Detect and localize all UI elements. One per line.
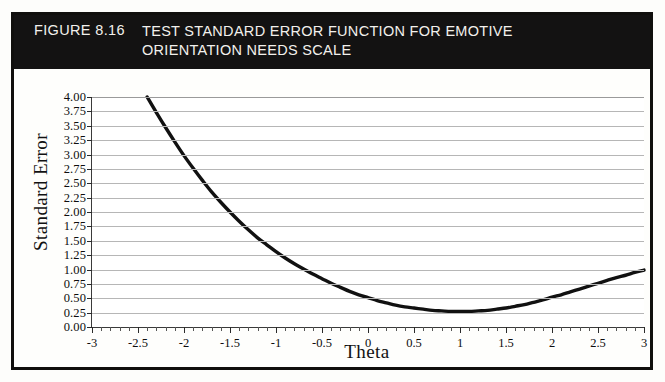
x-tick-minor [147,327,148,331]
y-tick-label: 0.50 [64,291,86,306]
x-tick-minor [488,327,489,331]
x-tick-minor [359,327,360,331]
y-gridline [92,140,644,141]
y-gridline [92,270,644,271]
x-tick-minor [285,327,286,331]
x-tick-minor [101,327,102,331]
y-tick-mark [87,111,92,112]
x-tick-minor [589,327,590,331]
y-tick-label: 2.50 [64,176,86,191]
x-tick-mark [138,327,139,333]
x-tick-minor [350,327,351,331]
x-tick-mark [460,327,461,333]
x-tick-minor [570,327,571,331]
plot-area: 0.000.250.500.751.001.251.501.752.002.25… [91,97,644,328]
x-tick-mark [322,327,323,333]
y-gridline [92,155,644,156]
curve-path [147,97,644,312]
chart-body: Standard Error 0.000.250.500.751.001.251… [14,69,650,367]
x-tick-mark [368,327,369,333]
x-tick-minor [156,327,157,331]
x-tick-minor [607,327,608,331]
x-tick-mark [230,327,231,333]
y-tick-mark [87,270,92,271]
y-tick-mark [87,126,92,127]
y-tick-label: 4.00 [64,90,86,105]
x-tick-mark [506,327,507,333]
x-tick-minor [561,327,562,331]
y-gridline [92,241,644,242]
x-tick-minor [331,327,332,331]
y-tick-mark [87,198,92,199]
x-tick-minor [543,327,544,331]
x-tick-minor [432,327,433,331]
y-gridline [92,212,644,213]
x-tick-mark [598,327,599,333]
figure-title-text: TEST STANDARD ERROR FUNCTION FOR EMOTIVE… [142,22,612,60]
y-tick-label: 3.00 [64,147,86,162]
x-tick-minor [239,327,240,331]
x-tick-minor [580,327,581,331]
y-gridline [92,284,644,285]
y-tick-mark [87,155,92,156]
y-tick-label: 3.50 [64,118,86,133]
y-tick-mark [87,313,92,314]
y-tick-label: 1.50 [64,233,86,248]
x-tick-minor [294,327,295,331]
y-tick-label: 1.75 [64,219,86,234]
y-gridline [92,226,644,227]
x-tick-mark [276,327,277,333]
y-gridline [92,198,644,199]
y-gridline [92,97,644,98]
y-tick-mark [87,169,92,170]
y-tick-mark [87,241,92,242]
x-tick-mark [92,327,93,333]
y-gridline [92,111,644,112]
y-gridline [92,298,644,299]
x-tick-minor [120,327,121,331]
x-tick-minor [616,327,617,331]
x-axis-title: Theta [91,341,643,363]
y-tick-label: 2.00 [64,205,86,220]
banner-row: FIGURE 8.16 TEST STANDARD ERROR FUNCTION… [14,22,650,60]
x-tick-minor [524,327,525,331]
y-tick-mark [87,97,92,98]
y-tick-label: 0.00 [64,320,86,335]
y-tick-label: 1.25 [64,248,86,263]
y-tick-mark [87,140,92,141]
x-tick-minor [626,327,627,331]
plot-inner: 0.000.250.500.751.001.251.501.752.002.25… [92,97,644,327]
x-tick-minor [423,327,424,331]
x-tick-minor [175,327,176,331]
y-tick-label: 0.75 [64,276,86,291]
x-tick-mark [644,327,645,333]
y-gridline [92,255,644,256]
y-tick-mark [87,183,92,184]
y-tick-label: 3.25 [64,133,86,148]
x-tick-mark [552,327,553,333]
y-tick-mark [87,255,92,256]
x-tick-minor [377,327,378,331]
x-tick-minor [451,327,452,331]
x-tick-minor [534,327,535,331]
y-tick-label: 1.00 [64,262,86,277]
y-tick-mark [87,212,92,213]
x-tick-minor [340,327,341,331]
y-tick-label: 3.75 [64,104,86,119]
x-tick-minor [212,327,213,331]
y-gridline [92,183,644,184]
y-axis-title: Standard Error [30,102,52,282]
x-tick-mark [414,327,415,333]
x-tick-minor [129,327,130,331]
y-tick-mark [87,284,92,285]
y-tick-label: 2.25 [64,190,86,205]
x-tick-minor [313,327,314,331]
x-tick-minor [221,327,222,331]
x-tick-minor [386,327,387,331]
figure-number-label: FIGURE 8.16 [34,22,142,38]
y-gridline [92,169,644,170]
x-tick-minor [635,327,636,331]
y-gridline [92,126,644,127]
figure-title-banner: FIGURE 8.16 TEST STANDARD ERROR FUNCTION… [14,15,650,69]
y-tick-label: 2.75 [64,161,86,176]
